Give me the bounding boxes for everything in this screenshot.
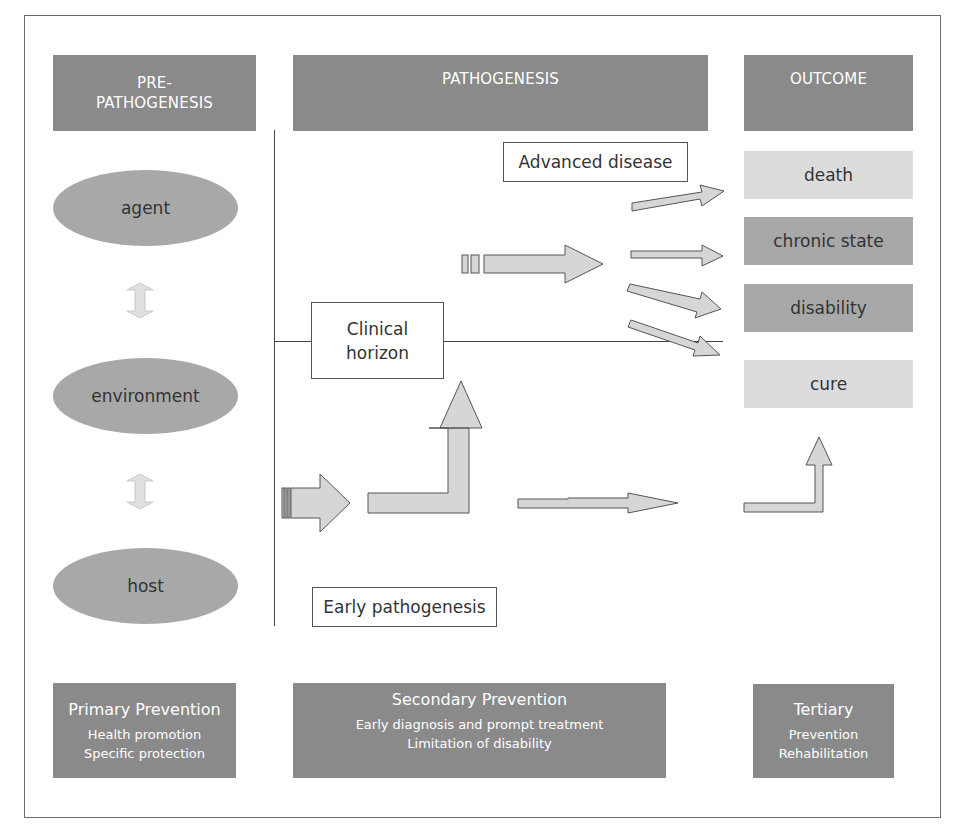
prevention-primary: Primary Prevention Health promotion Spec…	[53, 683, 236, 778]
arrow-to-chronic-icon	[631, 245, 723, 266]
tertiary-prevention-title: Tertiary	[793, 699, 853, 721]
arrow-to-cure-icon	[628, 320, 720, 356]
secondary-prevention-line2: Limitation of disability	[407, 734, 551, 753]
tertiary-prevention-line1: Prevention	[789, 725, 859, 744]
primary-prevention-line1: Health promotion	[88, 725, 202, 744]
bend-arrow-to-cure-icon	[744, 437, 832, 512]
advanced-arrow-icon	[462, 245, 603, 283]
horizontal-arrow-icon	[518, 493, 678, 513]
prevention-tertiary: Tertiary Prevention Rehabilitation	[753, 684, 894, 778]
arrow-to-death-icon	[632, 185, 724, 211]
double-arrow-agent-environment-icon	[127, 283, 153, 318]
secondary-prevention-title: Secondary Prevention	[392, 689, 567, 711]
start-arrow-icon	[282, 474, 350, 532]
primary-prevention-line2: Specific protection	[84, 744, 205, 763]
secondary-prevention-line1: Early diagnosis and prompt treatment	[356, 715, 604, 734]
arrow-to-disability-icon	[627, 284, 721, 318]
prevention-secondary: Secondary Prevention Early diagnosis and…	[293, 683, 666, 778]
double-arrow-environment-host-icon	[127, 474, 153, 509]
bend-arrow-up-icon	[368, 381, 482, 513]
primary-prevention-title: Primary Prevention	[68, 699, 220, 721]
tertiary-prevention-line2: Rehabilitation	[779, 744, 869, 763]
